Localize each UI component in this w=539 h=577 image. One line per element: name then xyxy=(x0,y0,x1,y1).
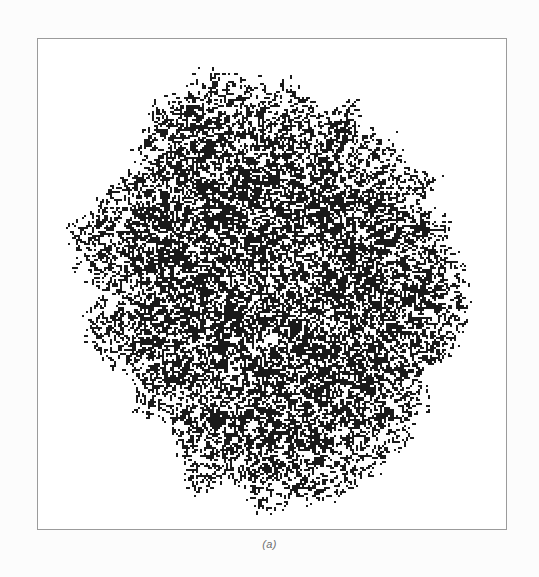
figure-caption: (a) xyxy=(0,538,539,550)
figure-root: (a) xyxy=(0,0,539,577)
plot-frame xyxy=(37,38,507,530)
cluster-plot-canvas xyxy=(38,39,506,529)
